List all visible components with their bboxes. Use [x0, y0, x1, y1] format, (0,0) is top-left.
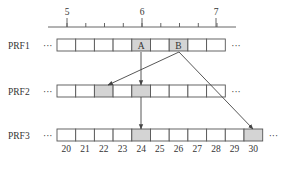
major-tick-label: 7 [214, 7, 219, 17]
scale-axis: 567 [48, 7, 236, 27]
register-cell [76, 85, 95, 97]
register-cell [57, 39, 76, 51]
register-cell [151, 39, 170, 51]
register-cell [207, 129, 226, 141]
register-cell [76, 39, 95, 51]
major-tick-label: 6 [140, 7, 145, 17]
major-tick-label: 5 [65, 7, 70, 17]
register-cell [132, 85, 151, 97]
row-prf1: PRF1···AB··· [8, 39, 241, 51]
register-cell [57, 85, 76, 97]
register-cell [244, 129, 263, 141]
cell-index: 26 [174, 144, 184, 154]
register-cell [113, 85, 132, 97]
register-cell [94, 129, 113, 141]
left-ellipsis: ··· [43, 131, 53, 141]
register-cell [207, 39, 226, 51]
right-ellipsis: ··· [269, 131, 279, 141]
left-ellipsis: ··· [43, 87, 53, 97]
cell-index: 27 [193, 144, 203, 154]
register-cell [188, 129, 207, 141]
register-cell [225, 129, 244, 141]
cell-index: 21 [80, 144, 90, 154]
row-label: PRF3 [8, 131, 30, 141]
cell-label: B [175, 41, 181, 51]
register-cell [169, 129, 188, 141]
register-cell [188, 85, 207, 97]
register-cell [169, 85, 188, 97]
register-cell [94, 39, 113, 51]
row-prf2: PRF2······ [8, 85, 241, 97]
row-label: PRF2 [8, 87, 30, 97]
register-cell [151, 129, 170, 141]
row-label: PRF1 [8, 41, 30, 51]
cell-index: 22 [99, 144, 109, 154]
prf-diagram: 567 PRF1···AB···PRF2······PRF3···2021222… [0, 0, 281, 170]
register-cell [151, 85, 170, 97]
left-ellipsis: ··· [43, 41, 53, 51]
arrow [108, 52, 179, 85]
row-prf3: PRF3···2021222324252627282930··· [8, 129, 278, 154]
cell-index: 30 [249, 144, 259, 154]
register-cell [113, 129, 132, 141]
cell-index: 29 [230, 144, 240, 154]
cell-index: 23 [118, 144, 128, 154]
register-cell [94, 85, 113, 97]
register-cell [57, 129, 76, 141]
cell-index: 25 [155, 144, 165, 154]
cell-index: 28 [211, 144, 221, 154]
right-ellipsis: ··· [231, 87, 241, 97]
register-cell [188, 39, 207, 51]
right-ellipsis: ··· [231, 41, 241, 51]
cell-label: A [138, 41, 145, 51]
prf-rows: PRF1···AB···PRF2······PRF3···20212223242… [8, 39, 278, 154]
register-cell [113, 39, 132, 51]
cell-index: 20 [62, 144, 72, 154]
register-cell [76, 129, 95, 141]
cell-index: 24 [136, 144, 146, 154]
register-cell [132, 129, 151, 141]
